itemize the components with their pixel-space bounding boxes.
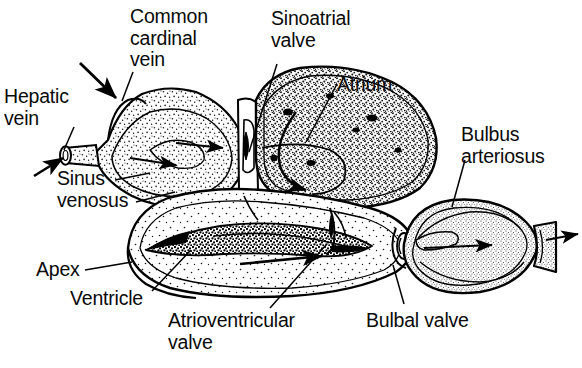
hepatic-vein-tube (60, 145, 99, 166)
label-ventricle: Ventricle (70, 288, 143, 310)
label-atrioventricular-valve: Atrioventricular valve (168, 310, 295, 353)
label-common-cardinal-vein: Common cardinal vein (130, 6, 208, 71)
leader-apex (85, 262, 132, 270)
leader-common-cardinal-vein (122, 72, 133, 101)
label-atrium: Atrium (337, 74, 392, 96)
fish-heart-diagram: Hepatic vein Common cardinal vein Sinoat… (0, 0, 582, 368)
label-hepatic-vein: Hepatic vein (4, 86, 69, 129)
label-apex: Apex (36, 259, 80, 281)
label-sinus-venosus: Sinus venosus (57, 168, 128, 211)
label-bulbal-valve: Bulbal valve (366, 310, 469, 332)
common-cardinal-vein-inflow-arrow (80, 63, 116, 98)
label-sinoatrial-valve: Sinoatrial valve (271, 8, 350, 51)
label-bulbus-arteriosus: Bulbus arteriosus (461, 124, 545, 167)
